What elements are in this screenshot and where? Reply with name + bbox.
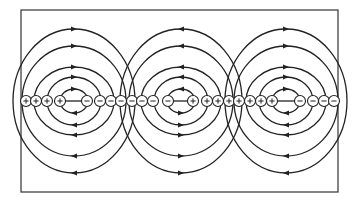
negative-charge — [116, 96, 127, 107]
arrow-icon — [283, 65, 289, 70]
arrow-icon — [283, 111, 289, 116]
negative-charge — [148, 96, 159, 107]
negative-charge — [308, 96, 319, 107]
arrow-icon — [71, 123, 77, 128]
arrow-icon — [71, 154, 77, 159]
arrow-icon — [283, 87, 289, 92]
field-lines-canvas — [0, 0, 355, 200]
positive-charge — [234, 96, 245, 107]
positive-charge — [245, 96, 256, 107]
positive-charge — [256, 96, 267, 107]
arrow-icon — [283, 154, 289, 159]
negative-charge — [95, 96, 106, 107]
negative-charge — [319, 96, 330, 107]
positive-charge — [188, 96, 199, 107]
arrow-icon — [283, 123, 289, 128]
positive-charge — [224, 96, 235, 107]
negative-charge — [106, 96, 117, 107]
arrow-icon — [71, 171, 77, 176]
arrow-icon — [71, 111, 77, 116]
arrow-icon — [178, 171, 184, 176]
arrow-icon — [178, 154, 184, 159]
positive-charge — [267, 96, 278, 107]
dipole-field-diagram — [0, 0, 355, 200]
positive-charge — [42, 96, 53, 107]
positive-charge — [31, 96, 42, 107]
negative-charge — [295, 96, 306, 107]
positive-charge — [213, 96, 224, 107]
arrow-icon — [178, 27, 184, 32]
arrow-icon — [71, 133, 77, 138]
arrow-icon — [71, 27, 77, 32]
positive-charge — [55, 96, 66, 107]
positive-charge — [202, 96, 213, 107]
negative-charge — [137, 96, 148, 107]
arrow-icon — [283, 171, 289, 176]
arrow-icon — [283, 75, 289, 80]
arrow-icon — [178, 87, 184, 92]
arrow-icon — [71, 87, 77, 92]
positive-charge — [21, 96, 32, 107]
arrow-icon — [71, 65, 77, 70]
arrow-icon — [283, 44, 289, 49]
negative-charge — [163, 96, 174, 107]
negative-charge — [127, 96, 138, 107]
arrow-icon — [178, 44, 184, 49]
arrow-icon — [178, 123, 184, 128]
negative-charge — [329, 96, 340, 107]
arrow-icon — [71, 44, 77, 49]
arrow-icon — [178, 133, 184, 138]
arrow-icon — [71, 75, 77, 80]
negative-charge — [82, 96, 93, 107]
arrow-icon — [178, 75, 184, 80]
arrow-icon — [283, 133, 289, 138]
arrow-icon — [283, 27, 289, 32]
arrow-icon — [178, 65, 184, 70]
arrow-icon — [178, 111, 184, 116]
